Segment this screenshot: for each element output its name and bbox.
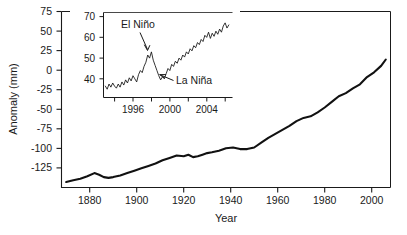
inset-y-tick-label: 60 <box>84 32 96 43</box>
main-x-tick-label: 2000 <box>360 194 384 206</box>
main-y-tick-labels: 75 50 25 0 -25 -50 -75 -100 -125 <box>31 5 52 173</box>
y-axis-title: Anomaly (mm) <box>7 63 19 135</box>
main-x-tick-labels: 1880 1900 1920 1940 1960 1980 2000 <box>78 194 384 206</box>
main-y-ticks <box>57 12 62 168</box>
inset-y-tick-label: 70 <box>84 11 96 22</box>
figure-container: 75 50 25 0 -25 -50 -75 -100 -125 <box>0 0 407 235</box>
inset-x-tick-label: 1996 <box>122 104 145 115</box>
inset-background <box>70 6 240 104</box>
x-axis-title: Year <box>215 212 238 224</box>
main-y-tick-label: 0 <box>46 64 52 76</box>
main-x-ticks <box>90 188 372 193</box>
inset-x-tick-labels: 1996 2000 2004 <box>122 104 218 115</box>
annotation-el-nino-label: El Niño <box>121 18 155 30</box>
main-y-tick-label: -50 <box>37 103 52 115</box>
inset-x-tick-label: 2000 <box>159 104 182 115</box>
main-x-tick-label: 1900 <box>125 194 149 206</box>
main-x-tick-label: 1920 <box>172 194 196 206</box>
sea-level-anomaly-chart: 75 50 25 0 -25 -50 -75 -100 -125 <box>0 0 407 235</box>
main-y-tick-label: 50 <box>40 25 52 37</box>
annotation-la-nina-label: La Niña <box>176 74 212 86</box>
main-x-tick-label: 1980 <box>313 194 337 206</box>
main-y-tick-label: 75 <box>40 5 52 17</box>
main-y-tick-label: -125 <box>31 161 52 173</box>
main-x-tick-label: 1880 <box>78 194 102 206</box>
inset-y-tick-label: 40 <box>84 74 96 85</box>
main-x-tick-label: 1940 <box>219 194 243 206</box>
inset-plot: 70 60 50 40 1996 2000 2004 <box>70 6 240 115</box>
main-y-tick-label: -25 <box>37 83 52 95</box>
inset-y-tick-label: 50 <box>84 53 96 64</box>
inset-x-tick-label: 2004 <box>196 104 219 115</box>
main-y-tick-label: -100 <box>31 142 52 154</box>
main-y-tick-label: -75 <box>37 122 52 134</box>
main-y-tick-label: 25 <box>40 44 52 56</box>
main-x-tick-label: 1960 <box>266 194 290 206</box>
